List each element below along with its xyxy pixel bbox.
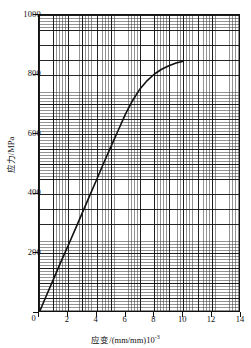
- y-label-400: 400: [7, 188, 41, 197]
- stress-strain-curve: [39, 15, 240, 312]
- curve-layer: [39, 15, 239, 311]
- x-axis-title-base: 应变/(mm/mm)10: [91, 335, 154, 345]
- x-axis-title-exponent: -3: [155, 334, 160, 340]
- y-label-200: 200: [7, 248, 41, 257]
- y-label-1000: 1000: [7, 10, 41, 19]
- x-label-4: 4: [86, 315, 106, 324]
- x-label-6: 6: [115, 315, 135, 324]
- x-label-12: 12: [201, 315, 221, 324]
- x-label-10: 10: [172, 315, 192, 324]
- x-axis-title: 应变/(mm/mm)10-3: [0, 332, 251, 345]
- x-label-14: 14: [230, 315, 250, 324]
- x-tick-0: [38, 312, 39, 317]
- plot-area: [38, 14, 240, 312]
- y-label-0: 0: [7, 314, 36, 323]
- y-axis-title: 应力/MPa: [6, 123, 16, 187]
- x-label-8: 8: [143, 315, 163, 324]
- y-label-800: 800: [7, 69, 41, 78]
- x-label-2: 2: [57, 315, 77, 324]
- stress-strain-chart: 1000 800 600 400 200 0 2 4 6 8 10 12 14 …: [0, 0, 251, 348]
